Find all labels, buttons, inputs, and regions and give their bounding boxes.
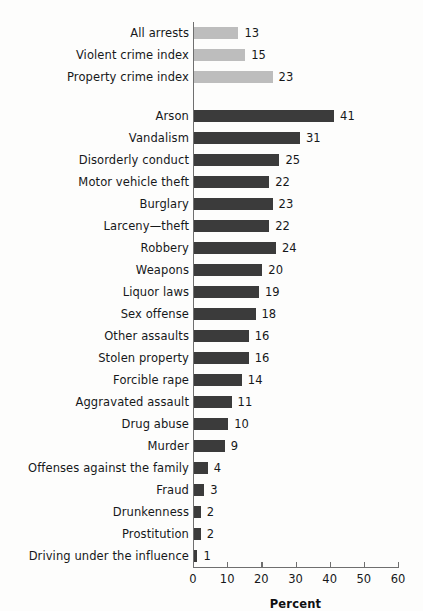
x-axis-tick [193, 562, 194, 568]
bar [194, 374, 242, 386]
bar-value-label: 20 [268, 259, 283, 281]
x-axis-tick [364, 562, 365, 568]
category-label: Burglary [139, 193, 189, 215]
bar-value-label: 2 [207, 523, 214, 545]
category-label: Forcible rape [113, 369, 189, 391]
category-label: Liquor laws [123, 281, 189, 303]
bar-value-label: 23 [279, 193, 294, 215]
category-label: Robbery [141, 237, 189, 259]
bar [194, 528, 201, 540]
x-axis-tick-label: 10 [220, 572, 235, 586]
bar [194, 110, 334, 122]
bar [194, 176, 269, 188]
bar-row: Arson41 [0, 105, 423, 127]
bar-value-label: 13 [244, 22, 259, 44]
bar-row: Drug abuse10 [0, 413, 423, 435]
bar [194, 462, 208, 474]
category-label: Driving under the influence [29, 545, 189, 567]
bar [194, 286, 259, 298]
bar-value-label: 31 [306, 127, 321, 149]
bar-row: All arrests13 [0, 22, 423, 44]
bar [194, 352, 249, 364]
bar [194, 550, 197, 562]
bar-row: Disorderly conduct25 [0, 149, 423, 171]
bar [194, 242, 276, 254]
bar-row: Murder9 [0, 435, 423, 457]
bar [194, 198, 273, 210]
category-label: Arson [156, 105, 189, 127]
bar-row: Larceny—theft22 [0, 215, 423, 237]
bar [194, 71, 273, 83]
bar [194, 330, 249, 342]
category-label: Murder [148, 435, 189, 457]
x-axis-tick-label: 0 [189, 572, 196, 586]
bar-row: Other assaults16 [0, 325, 423, 347]
category-label: Property crime index [67, 66, 189, 88]
x-axis-tick [330, 562, 331, 568]
bar-row: Motor vehicle theft22 [0, 171, 423, 193]
bar-value-label: 9 [231, 435, 238, 457]
category-label: Disorderly conduct [79, 149, 189, 171]
bar-value-label: 23 [279, 66, 294, 88]
bar-row: Prostitution2 [0, 523, 423, 545]
bar-value-label: 16 [255, 347, 270, 369]
category-label: Vandalism [129, 127, 189, 149]
bar-row: Robbery24 [0, 237, 423, 259]
category-label: Violent crime index [76, 44, 189, 66]
bar-value-label: 4 [214, 457, 221, 479]
x-axis-title: Percent [193, 597, 398, 611]
category-label: Sex offense [121, 303, 189, 325]
category-label: Motor vehicle theft [78, 171, 189, 193]
bar [194, 506, 201, 518]
bar-row: Burglary23 [0, 193, 423, 215]
x-axis-tick [296, 562, 297, 568]
bar-row: Vandalism31 [0, 127, 423, 149]
bar-value-label: 16 [255, 325, 270, 347]
bar-row: Stolen property16 [0, 347, 423, 369]
bar-value-label: 10 [234, 413, 249, 435]
bar-value-label: 25 [285, 149, 300, 171]
category-label: Prostitution [122, 523, 189, 545]
x-axis-tick-label: 50 [357, 572, 372, 586]
category-label: Larceny—theft [104, 215, 189, 237]
bar-value-label: 11 [238, 391, 253, 413]
x-axis-tick [261, 562, 262, 568]
category-label: Weapons [136, 259, 189, 281]
bar [194, 418, 228, 430]
bar-value-label: 22 [275, 215, 290, 237]
bar [194, 308, 256, 320]
group-separator [0, 88, 423, 105]
bar [194, 440, 225, 452]
x-axis-tick-label: 30 [288, 572, 303, 586]
category-label: Stolen property [98, 347, 189, 369]
bar-row: Sex offense18 [0, 303, 423, 325]
category-label: Drug abuse [121, 413, 189, 435]
x-axis-tick [398, 562, 399, 568]
bar [194, 27, 238, 39]
bar-value-label: 15 [251, 44, 266, 66]
category-label: Fraud [156, 479, 189, 501]
bar-row: Weapons20 [0, 259, 423, 281]
category-label: Drunkenness [113, 501, 189, 523]
bar-value-label: 3 [210, 479, 217, 501]
category-label: Offenses against the family [28, 457, 189, 479]
bar-value-label: 2 [207, 501, 214, 523]
bar [194, 154, 279, 166]
bar [194, 49, 245, 61]
x-axis-tick-label: 60 [391, 572, 406, 586]
bar-row: Forcible rape14 [0, 369, 423, 391]
bar-value-label: 22 [275, 171, 290, 193]
bar [194, 220, 269, 232]
category-label: All arrests [130, 22, 189, 44]
bar-value-label: 41 [340, 105, 355, 127]
bar [194, 396, 232, 408]
bar-row: Violent crime index15 [0, 44, 423, 66]
bar-row: Property crime index23 [0, 66, 423, 88]
bar-value-label: 1 [203, 545, 210, 567]
y-axis-line [193, 22, 194, 567]
bar-row: Driving under the influence1 [0, 545, 423, 567]
bar-value-label: 19 [265, 281, 280, 303]
x-axis-tick [227, 562, 228, 568]
bar [194, 484, 204, 496]
